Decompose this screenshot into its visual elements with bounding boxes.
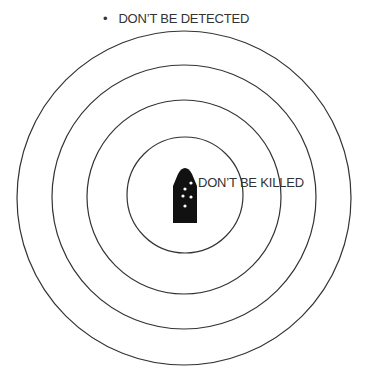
outer-ring-label: • DON’T BE DETECTED	[103, 11, 249, 26]
survivability-onion-diagram	[0, 0, 368, 381]
inner-ring-label: DON’T BE KILLED	[198, 175, 304, 190]
bullet-icon: •	[103, 11, 115, 26]
dont-be-detected-text: DON’T BE DETECTED	[118, 11, 249, 26]
damaged-vehicle-icon	[173, 168, 197, 223]
